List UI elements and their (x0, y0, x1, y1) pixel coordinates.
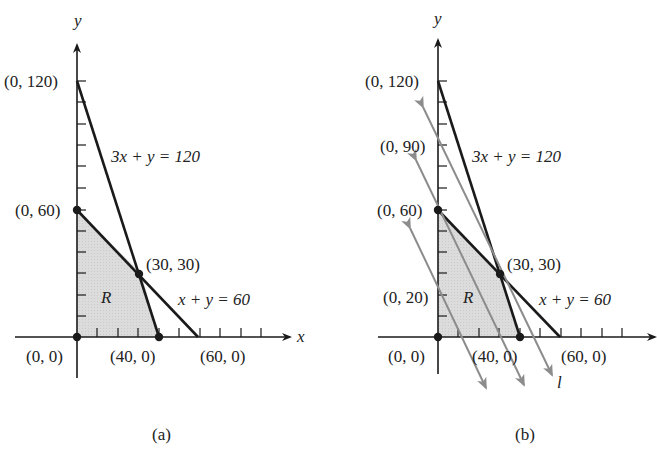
caption-b: (b) (515, 425, 535, 444)
equation-label-3x-y-120-b: 3x + y = 120 (471, 147, 562, 166)
point-label-0-20-b: (0, 20) (383, 288, 428, 307)
point-label-40-0-b: (40, 0) (472, 347, 517, 366)
panel-b: y (0, 120) (0, 90) (0, 60) (0, 20) (30, … (365, 9, 655, 444)
region-label-a: R (100, 288, 112, 307)
y-axis-label-b: y (432, 9, 442, 28)
point-label-60-0-b: (60, 0) (561, 347, 606, 366)
point-label-40-0-a: (40, 0) (110, 347, 155, 366)
region-label-b: R (462, 288, 474, 307)
point-label-0-0-a: (0, 0) (26, 347, 63, 366)
equation-label-x-y-60-b: x + y = 60 (538, 290, 612, 309)
point-label-0-0-b: (0, 0) (388, 347, 425, 366)
point-label-30-30-a: (30, 30) (146, 255, 200, 274)
point-label-0-60-a: (0, 60) (15, 201, 60, 220)
caption-a: (a) (152, 425, 171, 444)
x-axis-label-a: x (296, 327, 305, 346)
point-label-30-30-b: (30, 30) (507, 255, 561, 274)
point-label-0-120-b: (0, 120) (365, 72, 419, 91)
point-label-0-60-b: (0, 60) (377, 201, 422, 220)
equation-label-x-y-60-a: x + y = 60 (177, 290, 251, 309)
objective-line-label: l (557, 373, 562, 392)
panel-a: y x (0, 120) (0, 60) (30, 30) (0, 0) (40… (4, 11, 305, 444)
point-label-0-90-b: (0, 90) (380, 137, 425, 156)
point-label-0-120-a: (0, 120) (4, 72, 58, 91)
y-axis-label-a: y (72, 11, 82, 30)
equation-label-3x-y-120-a: 3x + y = 120 (110, 147, 201, 166)
point-label-60-0-a: (60, 0) (200, 347, 245, 366)
figure-canvas: y x (0, 120) (0, 60) (30, 30) (0, 0) (40… (0, 0, 657, 449)
